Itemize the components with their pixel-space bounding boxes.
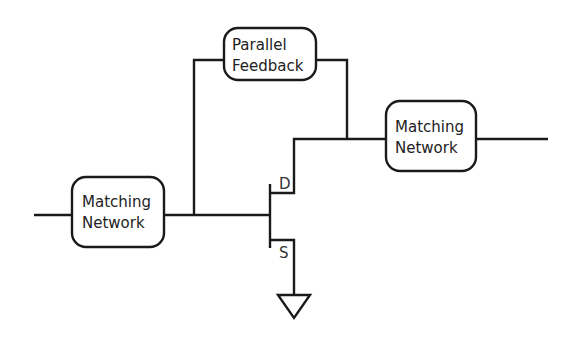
input-mn-label-1: Matching: [82, 193, 151, 211]
source-label: S: [279, 244, 289, 262]
input-mn-label-2: Network: [82, 214, 145, 232]
feedback-left-wire: [194, 60, 224, 215]
feedback-label-1: Parallel: [232, 36, 287, 54]
feedback-label-2: Feedback: [232, 57, 304, 75]
input-matching-network-block: [72, 177, 164, 247]
schematic-svg: Parallel Feedback Matching Network Match…: [0, 0, 575, 343]
ground-icon: [278, 295, 310, 318]
circuit-diagram: Parallel Feedback Matching Network Match…: [0, 0, 575, 343]
output-matching-network-block: [386, 101, 476, 171]
feedback-right-wire: [316, 60, 347, 139]
output-mn-label-1: Matching: [395, 118, 464, 136]
drain-label: D: [279, 175, 291, 193]
output-mn-label-2: Network: [395, 139, 458, 157]
